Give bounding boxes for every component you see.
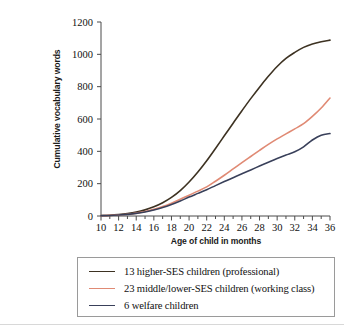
legend-swatch-higher-ses — [89, 271, 115, 272]
series-line-2 — [101, 134, 330, 216]
chart-legend: 13 higher-SES children (professional) 23… — [77, 257, 335, 317]
x-tick-label-group: 1012141618202224262830323436 — [96, 222, 336, 233]
x-tick-label: 32 — [290, 222, 301, 233]
y-tick-label: 600 — [77, 114, 93, 125]
legend-item[interactable]: 23 middle/lower-SES children (working cl… — [78, 280, 334, 297]
legend-swatch-welfare — [89, 305, 115, 306]
series-line-1 — [101, 98, 330, 216]
x-tick-label: 20 — [184, 222, 195, 233]
series-group — [101, 40, 330, 216]
x-tick-label: 30 — [272, 222, 283, 233]
legend-item[interactable]: 13 higher-SES children (professional) — [78, 263, 334, 280]
x-tick-label: 34 — [307, 222, 318, 233]
x-tick-label: 36 — [325, 222, 336, 233]
chart-canvas: 020040060080010001200 101214161820222426… — [0, 0, 344, 252]
x-tick-label: 12 — [113, 222, 124, 233]
x-tick-label: 14 — [131, 222, 142, 233]
y-tick-label: 200 — [77, 178, 93, 189]
x-tick-label: 26 — [237, 222, 248, 233]
y-tick-label: 1000 — [72, 49, 93, 60]
x-tick-label: 18 — [166, 222, 177, 233]
chart-plot-area: Cumulative vocabulary words Age of child… — [0, 0, 344, 252]
y-tick-label: 1200 — [72, 17, 93, 28]
legend-item[interactable]: 6 welfare children — [78, 297, 334, 314]
y-tick-label: 800 — [77, 81, 93, 92]
page-bottom-rule — [0, 324, 344, 325]
legend-label-welfare: 6 welfare children — [124, 300, 198, 311]
y-tick-label-group: 020040060080010001200 — [72, 17, 93, 222]
y-tick-label: 400 — [77, 146, 93, 157]
x-tick-label: 28 — [254, 222, 265, 233]
legend-label-higher-ses: 13 higher-SES children (professional) — [124, 266, 279, 277]
legend-swatch-middle-lower-ses — [89, 288, 115, 289]
x-tick-label: 16 — [149, 222, 160, 233]
x-tick-label: 22 — [201, 222, 212, 233]
y-tick-label: 0 — [88, 211, 93, 222]
x-tick-label: 10 — [96, 222, 107, 233]
legend-label-middle-lower-ses: 23 middle/lower-SES children (working cl… — [124, 283, 314, 294]
x-tick-label: 24 — [219, 222, 230, 233]
figure: Cumulative vocabulary words Age of child… — [0, 0, 344, 327]
